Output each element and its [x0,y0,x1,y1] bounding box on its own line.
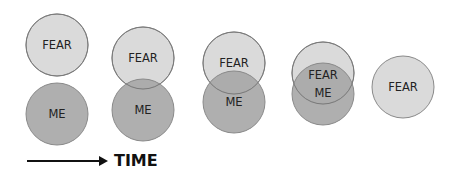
me-label: ME [134,103,151,117]
stage-5: FEAR [372,56,434,118]
fear-label: FEAR [219,56,249,70]
me-label: ME [48,107,65,121]
fear-label: FEAR [388,80,418,94]
stage-4: FEARME [292,42,354,125]
fear-label: FEAR [128,51,158,65]
stage-1: FEARME [26,14,88,145]
me-label: ME [225,95,242,109]
time-label: TIME [114,151,158,170]
fear-label: FEAR [308,68,338,82]
fear-label: FEAR [42,38,72,52]
stage-3: FEARME [203,32,265,133]
stage-2: FEARME [112,27,174,141]
me-label: ME [314,86,331,100]
time-arrow: TIME [27,151,158,170]
arrowhead-icon [99,156,108,166]
fear-me-time-diagram: FEARMEFEARMEFEARMEFEARMEFEARTIME [0,0,454,177]
